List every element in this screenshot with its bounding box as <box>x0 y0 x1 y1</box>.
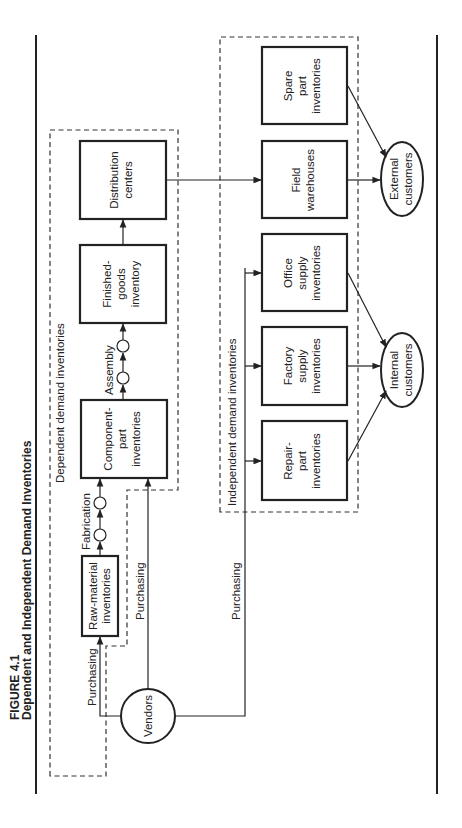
svg-text:Field: Field <box>290 168 302 193</box>
office-supply-inventories-node: Office supply inventories <box>262 234 347 311</box>
finished-goods-inventory-node: Finished- goods inventory <box>80 245 166 323</box>
fabrication-label: Fabrication <box>80 493 92 550</box>
figure-title: Dependent and Independent Demand Invento… <box>20 440 34 720</box>
svg-text:Spare: Spare <box>282 71 294 102</box>
svg-text:inventories: inventories <box>310 58 322 114</box>
svg-text:supply: supply <box>296 256 308 289</box>
internal-customers-node: Internal customers <box>381 333 423 407</box>
svg-text:Internal: Internal <box>388 351 400 389</box>
svg-text:inventory: inventory <box>129 260 141 307</box>
svg-text:inventories: inventories <box>310 433 322 489</box>
distribution-centers-node: Distribution centers <box>80 141 166 219</box>
factory-supply-inventories-node: Factory supply inventories <box>262 327 347 405</box>
edge-spare-external <box>348 86 386 157</box>
spare-part-inventories-node: Spare part inventories <box>262 47 347 124</box>
svg-text:inventories: inventories <box>310 338 322 394</box>
figure-caption: FIGURE 4.1 Dependent and Independent Dem… <box>8 440 34 720</box>
edge-vendors-raw <box>100 637 121 716</box>
dependent-group-label: Dependent demand inventories <box>54 323 66 483</box>
svg-text:Finished-: Finished- <box>101 260 113 307</box>
svg-text:supply: supply <box>296 349 308 382</box>
svg-text:inventories: inventories <box>310 245 322 301</box>
assembly-label: Assembly <box>103 345 115 395</box>
purchasing-label-component: Purchasing <box>134 562 146 620</box>
svg-text:Factory: Factory <box>282 347 294 386</box>
external-customers-node: External customers <box>381 142 423 216</box>
svg-text:Repair-: Repair- <box>282 442 294 480</box>
raw-material-inventories-node: Raw-material inventories <box>82 556 118 636</box>
svg-text:goods: goods <box>115 268 127 300</box>
component-part-inventories-node: Component- part inventories <box>81 400 167 478</box>
figure-canvas: FIGURE 4.1 Dependent and Independent Dem… <box>0 0 462 828</box>
vendors-node: Vendors <box>121 689 175 743</box>
svg-text:customers: customers <box>402 152 414 205</box>
svg-text:part: part <box>296 450 308 471</box>
purchasing-label-raw: Purchasing <box>86 648 98 706</box>
svg-text:centers: centers <box>122 161 134 199</box>
svg-text:inventories: inventories <box>100 568 112 624</box>
purchasing-label-independent: Purchasing <box>230 562 242 620</box>
svg-text:part: part <box>116 428 128 449</box>
svg-text:inventories: inventories <box>130 411 142 467</box>
svg-text:Distribution: Distribution <box>108 151 120 209</box>
svg-text:warehouses: warehouses <box>304 149 316 212</box>
edge-repair-internal <box>348 391 386 461</box>
svg-text:Component-: Component- <box>102 407 114 470</box>
svg-text:Office: Office <box>282 258 294 288</box>
repair-part-inventories-node: Repair- part inventories <box>262 421 347 500</box>
svg-text:Vendors: Vendors <box>142 695 154 737</box>
svg-text:customers: customers <box>402 343 414 396</box>
field-warehouses-node: Field warehouses <box>262 141 347 218</box>
edge-office-internal <box>348 273 386 347</box>
svg-text:External: External <box>388 158 400 200</box>
svg-text:Raw-material: Raw-material <box>87 562 99 630</box>
independent-group-label: Independent demand inventories <box>226 338 238 506</box>
svg-text:part: part <box>296 75 308 96</box>
